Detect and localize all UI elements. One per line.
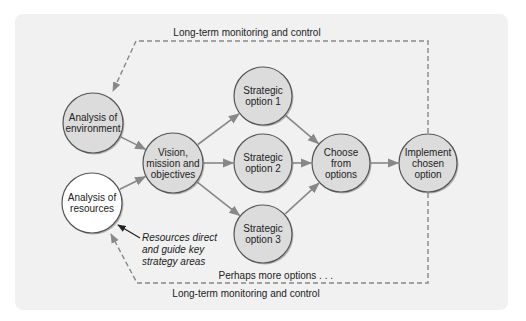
node-resources: Analysis ofresources xyxy=(62,173,124,235)
node-label: chosen xyxy=(412,158,444,169)
annotation-line-2: and guide key xyxy=(142,244,205,255)
edge-option3-to-choose xyxy=(285,183,319,214)
node-label: mission and xyxy=(146,158,199,169)
node-option3: Strategicoption 3 xyxy=(234,205,294,265)
edge-resources-to-vision xyxy=(120,177,145,190)
node-label: from xyxy=(331,158,351,169)
node-label: option xyxy=(414,169,441,180)
node-label: Strategic xyxy=(243,152,282,163)
node-label: objectives xyxy=(151,169,195,180)
annotation-line-1: Resources direct xyxy=(142,232,218,243)
top-feedback-label: Long-term monitoring and control xyxy=(173,27,320,38)
edge-option1-to-choose xyxy=(286,116,318,144)
node-label: options xyxy=(325,169,357,180)
node-vision: Vision,mission andobjectives xyxy=(143,133,205,195)
node-implement: Implementchosenoption xyxy=(399,134,459,194)
node-label: Implement xyxy=(405,147,452,158)
edge-vision-to-option3 xyxy=(197,182,239,215)
nodes: Analysis ofenvironmentAnalysis ofresourc… xyxy=(62,67,459,265)
node-label: resources xyxy=(70,203,114,214)
edge-environment-to-vision xyxy=(121,137,146,149)
annotation-arrow xyxy=(118,225,140,238)
more-options-label: Perhaps more options . . . xyxy=(218,270,333,281)
node-label: Vision, xyxy=(158,147,188,158)
edge-vision-to-option1 xyxy=(198,114,239,145)
annotation-line-3: strategy areas xyxy=(142,256,205,267)
node-environment: Analysis ofenvironment xyxy=(63,93,125,155)
node-label: Strategic xyxy=(243,223,282,234)
node-label: Analysis of xyxy=(68,192,117,203)
node-label: option 3 xyxy=(245,234,281,245)
node-choose: Choosefromoptions xyxy=(312,134,372,194)
node-label: Analysis of xyxy=(69,112,118,123)
bottom-feedback-label: Long-term monitoring and control xyxy=(172,288,319,299)
node-option2: Strategicoption 2 xyxy=(234,134,294,194)
strategy-process-diagram: Analysis ofenvironmentAnalysis ofresourc… xyxy=(0,0,526,321)
node-label: option 2 xyxy=(245,163,281,174)
node-option1: Strategicoption 1 xyxy=(234,67,294,127)
node-label: option 1 xyxy=(245,96,281,107)
node-label: Strategic xyxy=(243,85,282,96)
node-label: Choose xyxy=(324,147,359,158)
node-label: environment xyxy=(65,123,120,134)
